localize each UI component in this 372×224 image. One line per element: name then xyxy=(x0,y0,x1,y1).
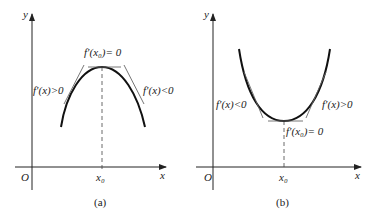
y-axis-label-b: y xyxy=(204,9,209,20)
label-derivative-negative-b: f′(x)<0 xyxy=(216,99,247,110)
x-axis-label-b: x xyxy=(355,170,360,181)
tangent-right-b xyxy=(306,72,326,118)
min-curve xyxy=(239,49,330,121)
label-derivative-positive-a: f′(x)>0 xyxy=(33,85,64,96)
caption-b: (b) xyxy=(276,197,289,208)
y-axis-label-a: y xyxy=(23,9,28,20)
tangent-left-b xyxy=(244,72,263,118)
label-derivative-zero-b: f′(x₀)= 0 xyxy=(286,126,323,137)
label-derivative-zero-a: f′(x₀)= 0 xyxy=(84,47,121,58)
origin-label-a: O xyxy=(21,172,29,183)
x-axis-label-a: x xyxy=(160,170,165,181)
label-derivative-negative-a: f′(x)<0 xyxy=(143,85,174,96)
caption-a: (a) xyxy=(94,197,106,208)
max-curve xyxy=(61,67,145,127)
figure-canvas xyxy=(0,0,372,224)
panel-a xyxy=(15,14,166,190)
origin-label-b: O xyxy=(204,172,212,183)
tangent-left-a xyxy=(64,65,84,104)
label-derivative-positive-b: f′(x)>0 xyxy=(322,99,353,110)
x0-label-b: x₀ xyxy=(279,172,288,183)
x0-label-a: x₀ xyxy=(96,172,105,183)
